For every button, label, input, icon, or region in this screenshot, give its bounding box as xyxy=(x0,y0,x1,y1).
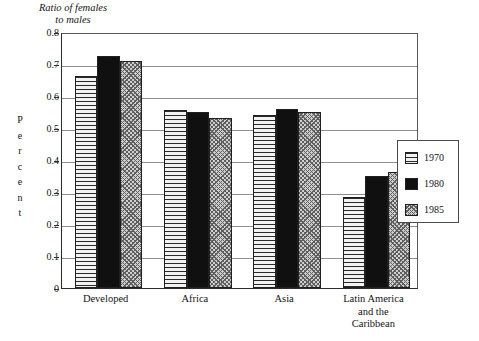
y-axis-tick-mark xyxy=(54,33,59,34)
bar-series-container xyxy=(62,34,417,288)
plot-area xyxy=(61,33,418,289)
y-axis-tick-mark xyxy=(54,97,59,98)
y-axis-tick-mark xyxy=(54,65,59,66)
bar-1970-latin-america-and-the-caribbean xyxy=(343,197,366,288)
legend-swatch-1980 xyxy=(405,178,418,190)
bar-1985-developed xyxy=(120,61,143,288)
y-axis-tick-mark xyxy=(54,289,59,290)
y-axis-tick-mark xyxy=(54,161,59,162)
bar-1980-asia xyxy=(276,109,299,288)
legend-label-1985: 1985 xyxy=(424,204,444,216)
bar-1980-africa xyxy=(187,112,210,288)
y-axis-tick-mark xyxy=(54,257,59,258)
legend-item-1985[interactable]: 1985 xyxy=(405,204,457,217)
legend-label-1970: 1970 xyxy=(424,152,444,164)
y-axis-tick-mark xyxy=(54,225,59,226)
bar-1970-developed xyxy=(75,76,98,288)
x-axis-category-labels: DevelopedAfricaAsiaLatin Americaand theC… xyxy=(0,293,479,341)
x-axis-label-line: Caribbean xyxy=(315,318,432,331)
bar-1980-latin-america-and-the-caribbean xyxy=(365,176,388,288)
y-axis-tick-mark xyxy=(54,193,59,194)
x-axis-label-line: Latin America xyxy=(315,293,432,306)
legend-swatch-1985 xyxy=(405,204,418,216)
legend-swatch-1970 xyxy=(405,152,418,164)
legend-label-1980: 1980 xyxy=(424,178,444,190)
bar-1970-africa xyxy=(164,110,187,288)
chart-legend: 197019801985 xyxy=(397,140,459,223)
bar-1970-asia xyxy=(253,115,276,288)
legend-item-1970[interactable]: 1970 xyxy=(405,152,457,165)
bar-1985-africa xyxy=(209,118,232,288)
x-axis-label-line: and the xyxy=(315,306,432,319)
chart-figure: Ratio of females to males P e r c e n t … xyxy=(0,0,479,341)
legend-item-1980[interactable]: 1980 xyxy=(405,178,457,191)
bar-1985-asia xyxy=(298,112,321,288)
bar-1980-developed xyxy=(97,56,120,288)
y-axis-tick-mark xyxy=(54,129,59,130)
x-axis-label-latin-america-and-the-caribbean: Latin Americaand theCaribbean xyxy=(315,293,432,331)
